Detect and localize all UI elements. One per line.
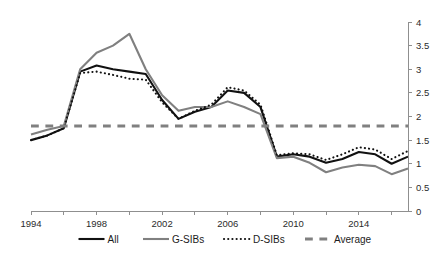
y-axis-tick-label: 2 <box>416 111 421 122</box>
y-axis-tick-label: 0.5 <box>416 182 429 193</box>
y-axis-tick-label: 3 <box>416 64 421 75</box>
x-axis-tick-label: 2014 <box>348 218 369 229</box>
line-chart: 19941998200220062010201400.511.522.533.5… <box>0 0 447 255</box>
x-axis-tick-label: 2010 <box>283 218 304 229</box>
x-axis-tick-label: 2006 <box>217 218 238 229</box>
y-axis-tick-label: 0 <box>416 206 421 217</box>
chart-container: 19941998200220062010201400.511.522.533.5… <box>0 0 447 255</box>
legend-label-average: Average <box>334 234 372 245</box>
legend-label-all: All <box>108 234 119 245</box>
x-axis-tick-label: 2002 <box>152 218 173 229</box>
y-axis-tick-label: 1 <box>416 158 421 169</box>
x-axis-tick-label: 1994 <box>20 218 41 229</box>
y-axis-tick-label: 3.5 <box>416 40 429 51</box>
chart-background <box>0 0 447 255</box>
legend-label-g-sibs: G-SIBs <box>172 234 204 245</box>
y-axis-tick-label: 4 <box>416 17 421 28</box>
y-axis-tick-label: 1.5 <box>416 135 429 146</box>
x-axis-tick-label: 1998 <box>86 218 107 229</box>
y-axis-tick-label: 2.5 <box>416 87 429 98</box>
legend-label-d-sibs: D-SIBs <box>253 234 285 245</box>
